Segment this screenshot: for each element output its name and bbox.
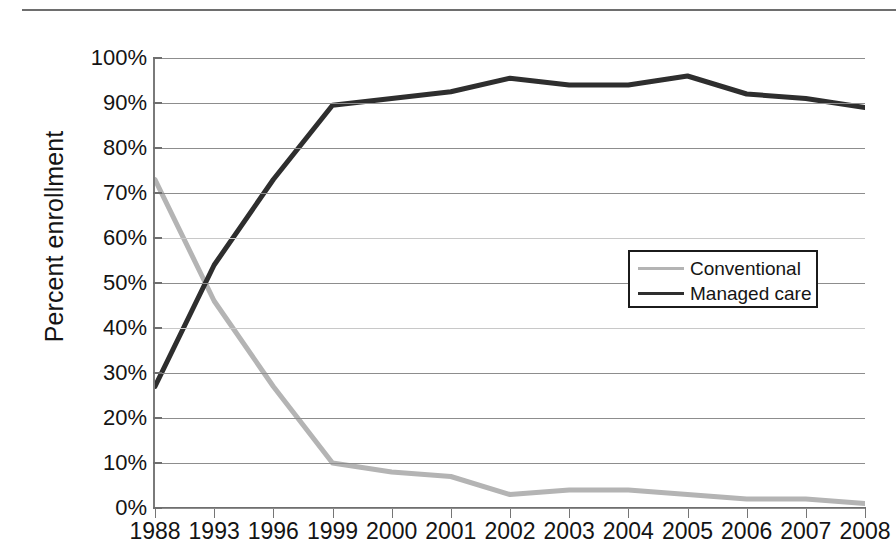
- x-tick-label: 2006: [721, 518, 772, 545]
- x-tick-label: 2002: [484, 518, 535, 545]
- x-tick-mark: [569, 509, 570, 518]
- y-axis-tick-labels: 0%10%20%30%40%50%60%70%80%90%100%: [35, 58, 147, 508]
- chart-legend: Conventional Managed care: [628, 250, 818, 308]
- x-tick-label: 1988: [129, 518, 180, 545]
- y-tick-mark: [153, 147, 162, 149]
- y-tick-mark: [153, 282, 162, 284]
- gridline: [155, 103, 865, 104]
- legend-label-conventional: Conventional: [690, 258, 801, 280]
- x-tick-mark: [333, 509, 334, 518]
- x-tick-label: 2003: [544, 518, 595, 545]
- x-tick-mark: [214, 509, 215, 518]
- y-tick-mark: [153, 327, 162, 329]
- legend-item-managed-care: Managed care: [638, 281, 816, 306]
- y-tick-label: 70%: [43, 180, 147, 206]
- legend-item-conventional: Conventional: [638, 256, 816, 281]
- x-tick-mark: [510, 509, 511, 518]
- y-tick-label: 20%: [43, 405, 147, 431]
- y-tick-label: 30%: [43, 360, 147, 386]
- x-tick-mark: [865, 509, 866, 518]
- page-top-rule: [22, 9, 896, 11]
- y-tick-label: 50%: [43, 270, 147, 296]
- legend-label-managed-care: Managed care: [690, 283, 811, 305]
- y-tick-label: 90%: [43, 90, 147, 116]
- series-line-managed-care: [155, 76, 865, 387]
- x-tick-label: 2005: [662, 518, 713, 545]
- y-tick-mark: [153, 57, 162, 59]
- x-tick-label: 1996: [248, 518, 299, 545]
- legend-swatch-conventional-icon: [638, 267, 684, 270]
- y-tick-mark: [153, 237, 162, 239]
- gridline: [155, 418, 865, 419]
- x-tick-mark: [273, 509, 274, 518]
- x-tick-mark: [747, 509, 748, 518]
- x-tick-label: 2001: [425, 518, 476, 545]
- gridline: [155, 373, 865, 374]
- gridline: [155, 328, 865, 329]
- x-tick-mark: [155, 509, 156, 518]
- gridline: [155, 463, 865, 464]
- gridline: [155, 58, 865, 59]
- y-tick-mark: [153, 417, 162, 419]
- y-tick-label: 40%: [43, 315, 147, 341]
- gridline: [155, 238, 865, 239]
- x-tick-mark: [806, 509, 807, 518]
- y-tick-label: 10%: [43, 450, 147, 476]
- x-tick-mark: [451, 509, 452, 518]
- y-tick-mark: [153, 192, 162, 194]
- y-tick-mark: [153, 372, 162, 374]
- legend-swatch-managed-care-icon: [638, 292, 684, 295]
- y-tick-mark: [153, 102, 162, 104]
- y-tick-label: 100%: [43, 45, 147, 71]
- x-tick-label: 1993: [189, 518, 240, 545]
- gridline: [155, 148, 865, 149]
- x-tick-label: 1999: [307, 518, 358, 545]
- x-tick-mark: [688, 509, 689, 518]
- y-tick-mark: [153, 462, 162, 464]
- x-tick-label: 2004: [603, 518, 654, 545]
- x-tick-mark: [628, 509, 629, 518]
- y-tick-label: 60%: [43, 225, 147, 251]
- x-tick-label: 2008: [839, 518, 890, 545]
- x-tick-mark: [392, 509, 393, 518]
- gridline: [155, 193, 865, 194]
- y-tick-label: 80%: [43, 135, 147, 161]
- x-tick-label: 2000: [366, 518, 417, 545]
- series-line-conventional: [155, 180, 865, 504]
- chart-figure: Percent enrollment 0%10%20%30%40%50%60%7…: [0, 0, 896, 552]
- x-tick-label: 2007: [780, 518, 831, 545]
